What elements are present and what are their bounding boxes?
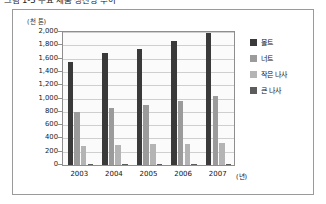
bar-series-container	[63, 32, 234, 165]
legend-swatch-icon	[250, 39, 257, 46]
bar	[102, 53, 108, 165]
plot-area	[62, 31, 235, 166]
y-tick-mark	[58, 31, 62, 32]
bar	[219, 143, 225, 165]
legend-label: 큰 나사	[261, 85, 281, 95]
bar-group	[167, 32, 202, 165]
legend-swatch-icon	[250, 71, 257, 78]
bar	[150, 144, 156, 165]
legend-swatch-icon	[250, 55, 257, 62]
y-tick-mark	[58, 71, 62, 72]
legend-label: 볼트	[261, 37, 273, 47]
y-tick-label: 200	[45, 147, 58, 154]
legend-item: 큰 나사	[250, 82, 287, 98]
bar-group	[98, 32, 133, 165]
figure-caption: 그림 1-3 주요 제품 생산량 추이	[4, 0, 244, 5]
bar	[185, 144, 191, 165]
x-tick-label: 2006	[166, 170, 201, 178]
bar-group	[201, 32, 236, 165]
y-tick-label: 800	[45, 107, 58, 114]
x-tick-label: 2004	[97, 170, 132, 178]
x-tick-label: 2007	[200, 170, 235, 178]
bar	[122, 164, 128, 165]
bar-group	[132, 32, 167, 165]
y-tick-label: 600	[45, 121, 58, 128]
legend-item: 작은 나사	[250, 66, 287, 82]
bar	[81, 146, 87, 165]
bar-group	[63, 32, 98, 165]
legend-swatch-icon	[250, 87, 257, 94]
bar	[137, 49, 143, 165]
bar	[171, 41, 177, 165]
legend-label: 작은 나사	[261, 69, 287, 79]
bar	[191, 164, 197, 165]
legend-item: 볼트	[250, 34, 287, 50]
chart-legend: 볼트너트작은 나사큰 나사	[250, 34, 287, 98]
bar	[109, 108, 115, 165]
y-tick-label: 1,600	[39, 54, 58, 61]
bar	[206, 33, 212, 165]
y-axis-unit-label: (천 톤)	[27, 16, 46, 26]
y-tick-label: 1,000	[39, 94, 58, 101]
legend-item: 너트	[250, 50, 287, 66]
y-tick-mark	[58, 124, 62, 125]
y-tick-label: 1,800	[39, 41, 58, 48]
bar	[74, 112, 80, 165]
y-axis-tick-labels: 2,0001,8001,6001,4001,2001,0008006004002…	[22, 31, 58, 166]
x-tick-label: 2005	[131, 170, 166, 178]
y-tick-label: 1,400	[39, 67, 58, 74]
y-tick-mark	[58, 137, 62, 138]
y-tick-mark	[58, 44, 62, 45]
bar	[143, 105, 149, 166]
bar	[157, 164, 163, 165]
x-tick-label: 2003	[62, 170, 97, 178]
y-tick-label: 400	[45, 134, 58, 141]
y-tick-mark	[58, 111, 62, 112]
x-axis-unit-label: (년)	[236, 171, 247, 181]
legend-label: 너트	[261, 53, 273, 63]
figure-container: 그림 1-3 주요 제품 생산량 추이 (천 톤) 2,0001,8001,60…	[0, 0, 326, 204]
bar	[178, 101, 184, 165]
bar	[88, 164, 94, 165]
bar	[115, 145, 121, 165]
bar	[213, 96, 219, 165]
y-tick-mark	[58, 58, 62, 59]
y-tick-mark	[58, 84, 62, 85]
y-tick-mark	[58, 164, 62, 165]
y-tick-mark	[58, 151, 62, 152]
bar	[68, 62, 74, 165]
y-tick-label: 2,000	[39, 28, 58, 35]
y-tick-mark	[58, 98, 62, 99]
y-tick-label: 1,200	[39, 81, 58, 88]
bar	[226, 164, 232, 165]
